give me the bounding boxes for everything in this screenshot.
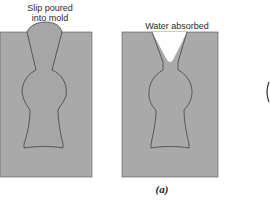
slip-casting-diagram bbox=[0, 0, 270, 201]
mold-water-absorbed bbox=[122, 32, 218, 177]
partial-next-panel bbox=[267, 82, 269, 102]
figure-caption: (a) bbox=[150, 183, 174, 195]
mold-slip-poured bbox=[0, 22, 92, 177]
